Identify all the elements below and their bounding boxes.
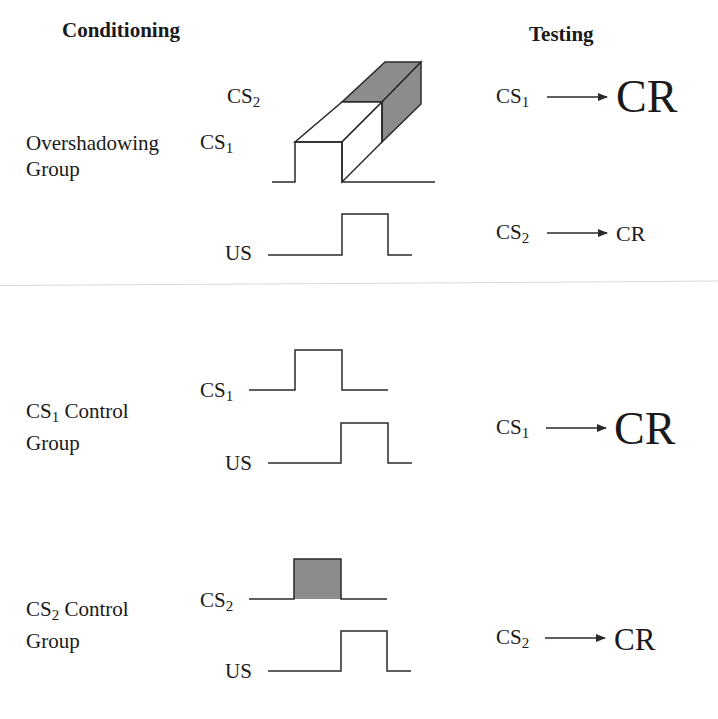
timing-diagrams xyxy=(0,0,718,719)
cs1-waveform xyxy=(249,350,388,390)
us-waveform xyxy=(268,214,412,255)
compound-stimulus-box xyxy=(272,62,435,182)
us-waveform xyxy=(268,631,411,671)
us-waveform xyxy=(268,423,412,463)
